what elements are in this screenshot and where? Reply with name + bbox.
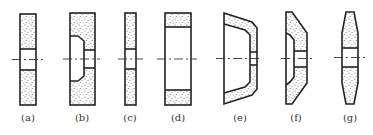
wheel-a (12, 14, 44, 105)
wheel-d (157, 13, 197, 105)
wheel-e (216, 13, 262, 104)
label-b: (b) (75, 112, 89, 123)
wheel-b (63, 13, 100, 105)
label-g: (g) (343, 112, 357, 123)
label-f: (f) (290, 112, 302, 123)
wheel-f (281, 12, 313, 104)
label-c: (c) (123, 112, 137, 123)
label-d: (d) (171, 112, 185, 123)
label-e: (e) (233, 112, 247, 123)
wheel-c (118, 13, 143, 105)
label-a: (a) (21, 112, 35, 123)
grinding-wheel-diagram: (a) (b) (c) (d) (e) (f) (g) (0, 0, 373, 135)
wheel-g (334, 12, 366, 104)
